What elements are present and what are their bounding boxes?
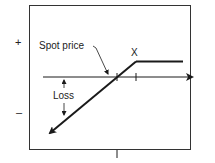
plus-label: + (15, 37, 21, 48)
spot-price-label: Spot price (39, 41, 84, 51)
strike-label: X (131, 48, 138, 58)
minus-label: – (16, 107, 22, 118)
loss-label: Loss (53, 91, 74, 101)
spot-price-leader (93, 46, 108, 74)
payoff-diagram (0, 0, 215, 163)
